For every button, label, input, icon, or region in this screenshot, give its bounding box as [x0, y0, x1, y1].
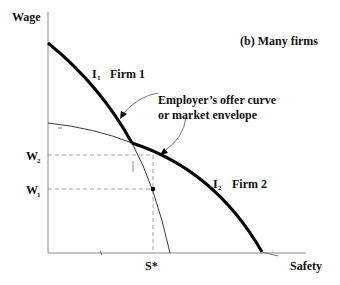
curve-i2	[132, 143, 262, 252]
w1-subscript: 1	[37, 191, 41, 199]
curve-i2-subscript: 2	[218, 184, 222, 192]
annotation-line1: Employer’s offer curve	[158, 93, 277, 107]
diagram-title: (b) Many firms	[240, 34, 318, 48]
y-axis-label: Wage	[12, 10, 41, 24]
diagram-canvas: Wage Safety (b) Many firms I 1 Firm 1 I …	[0, 0, 340, 285]
s-star-label: S*	[145, 259, 158, 273]
curve-i2-thin	[48, 123, 132, 143]
curve-i1-thin	[132, 143, 170, 253]
arrow-to-envelope	[163, 117, 186, 152]
curve-i1-label: Firm 1	[110, 67, 145, 81]
arrowhead-i1	[120, 111, 127, 119]
curve-i2-label: Firm 2	[232, 177, 267, 191]
w2-subscript: 2	[37, 157, 41, 165]
annotation-line2: or market envelope	[158, 108, 258, 122]
arrow-to-i1	[122, 93, 158, 115]
equilibrium-point	[151, 187, 156, 192]
curve-i1-subscript: 1	[97, 74, 101, 82]
x-axis-label: Safety	[290, 259, 322, 273]
